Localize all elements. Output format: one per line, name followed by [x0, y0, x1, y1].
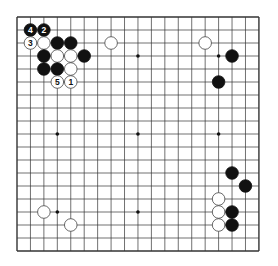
go-board: 42351 — [0, 0, 278, 266]
stone-disc — [64, 63, 77, 76]
black-stone — [51, 63, 64, 76]
white-stone: 3 — [24, 37, 37, 50]
stone-disc — [64, 37, 77, 50]
black-stone: 4 — [24, 24, 37, 37]
star-point — [136, 210, 140, 214]
black-stone — [239, 180, 252, 193]
stone-disc — [226, 50, 239, 63]
white-stone — [64, 219, 77, 232]
white-stone — [212, 219, 225, 232]
star-point — [217, 54, 221, 58]
white-stone — [64, 50, 77, 63]
stone-disc — [51, 50, 64, 63]
white-stone: 1 — [64, 76, 77, 89]
stone-disc — [226, 206, 239, 219]
stone-disc — [226, 219, 239, 232]
black-stone — [226, 219, 239, 232]
star-point — [136, 132, 140, 136]
stone-disc — [212, 193, 225, 206]
stone-disc — [212, 206, 225, 219]
black-stone — [212, 76, 225, 89]
white-stone — [212, 206, 225, 219]
star-point — [136, 54, 140, 58]
white-stone — [64, 63, 77, 76]
white-stone — [38, 37, 51, 50]
black-stone: 2 — [38, 24, 51, 37]
stone-disc — [239, 180, 252, 193]
white-stone — [51, 50, 64, 63]
stone-disc — [78, 50, 91, 63]
stone-disc — [226, 167, 239, 180]
stone-disc — [64, 50, 77, 63]
stone-disc — [105, 37, 118, 50]
stone-disc — [199, 37, 212, 50]
black-stone — [38, 50, 51, 63]
stone-disc — [51, 63, 64, 76]
black-stone — [38, 63, 51, 76]
stone-disc — [38, 37, 51, 50]
move-number-label: 4 — [28, 25, 33, 35]
white-stone — [38, 206, 51, 219]
black-stone — [226, 167, 239, 180]
stone-disc — [38, 63, 51, 76]
stone-disc — [212, 219, 225, 232]
stone-disc — [38, 206, 51, 219]
move-number-label: 2 — [42, 25, 47, 35]
move-number-label: 3 — [28, 38, 33, 48]
black-stone — [226, 206, 239, 219]
white-stone: 5 — [51, 76, 64, 89]
stone-disc — [51, 37, 64, 50]
black-stone — [64, 37, 77, 50]
star-point — [217, 132, 221, 136]
move-number-label: 5 — [55, 77, 60, 87]
star-point — [56, 210, 60, 214]
white-stone — [105, 37, 118, 50]
black-stone — [51, 37, 64, 50]
move-number-label: 1 — [68, 77, 73, 87]
white-stone — [199, 37, 212, 50]
stone-disc — [212, 76, 225, 89]
black-stone — [226, 50, 239, 63]
black-stone — [78, 50, 91, 63]
star-point — [56, 132, 60, 136]
white-stone — [212, 193, 225, 206]
stone-disc — [64, 219, 77, 232]
stone-disc — [38, 50, 51, 63]
